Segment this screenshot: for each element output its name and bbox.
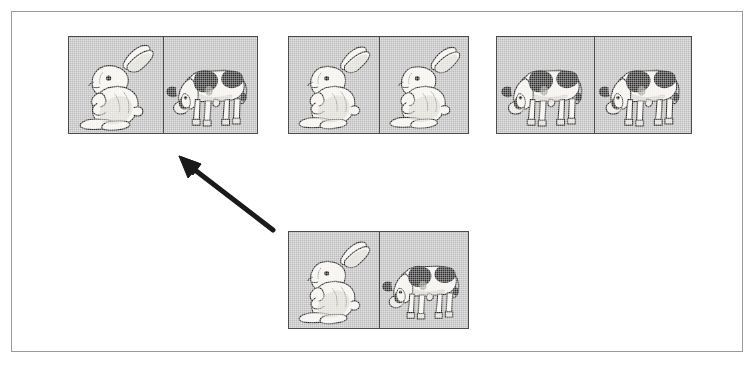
- cow-eye: [616, 96, 620, 100]
- rabbit-illustration: [289, 37, 379, 133]
- cell-rabbit[interactable]: [289, 37, 379, 133]
- cow-eye: [519, 96, 523, 100]
- figure-canvas: [0, 0, 754, 365]
- cell-cow[interactable]: [497, 37, 594, 133]
- rabbit-illustration: [289, 232, 379, 328]
- card-top-left[interactable]: [68, 36, 258, 134]
- cow-illustration: [497, 37, 594, 133]
- rabbit-eye: [324, 271, 329, 276]
- cow-illustration: [164, 37, 257, 133]
- cell-rabbit[interactable]: [69, 37, 163, 133]
- cell-rabbit[interactable]: [379, 37, 469, 133]
- cell-rabbit[interactable]: [289, 232, 379, 328]
- cell-cow[interactable]: [594, 37, 691, 133]
- card-top-right[interactable]: [496, 36, 692, 134]
- cell-cow[interactable]: [163, 37, 257, 133]
- cow-eye: [398, 290, 401, 293]
- panel-frame: [11, 11, 743, 352]
- selection-arrow: [171, 152, 283, 243]
- cow-illustration: [380, 232, 469, 328]
- cow-illustration: [595, 37, 691, 133]
- card-top-center[interactable]: [288, 36, 469, 134]
- rabbit-eye: [414, 76, 419, 81]
- rabbit-eye: [324, 76, 329, 81]
- rabbit-eye: [106, 76, 111, 81]
- rabbit-illustration: [69, 37, 163, 133]
- cell-cow[interactable]: [379, 232, 469, 328]
- card-bottom-center[interactable]: [288, 231, 469, 329]
- rabbit-illustration: [380, 37, 469, 133]
- cow-eye: [184, 96, 188, 100]
